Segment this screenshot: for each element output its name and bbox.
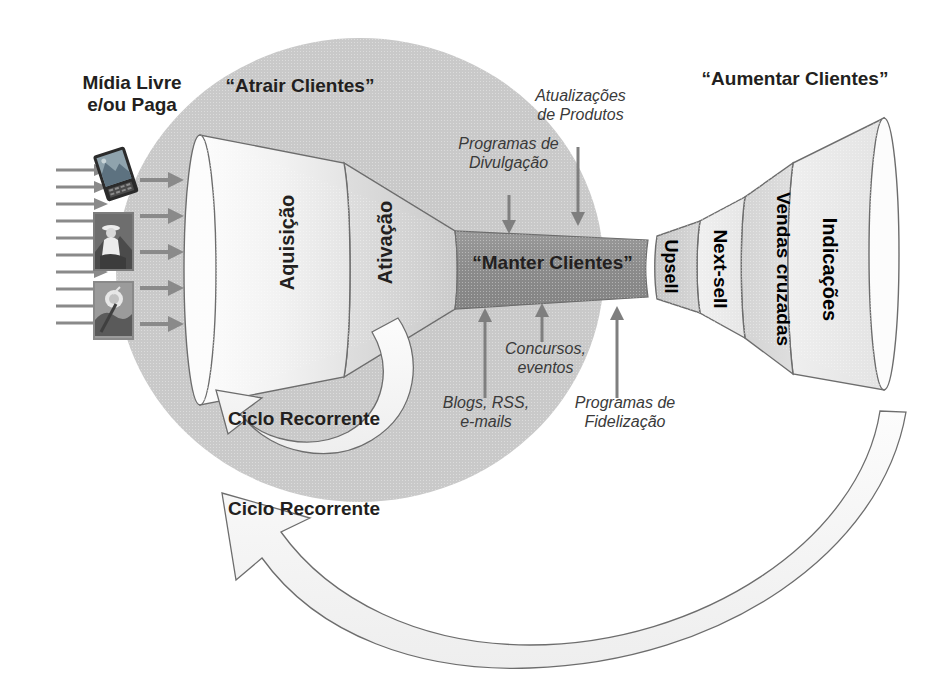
annotation-programas-de-divulgacao: Programas de Divulgação (426, 135, 591, 173)
ciclo-recorrente-interno-label: Ciclo Recorrente (228, 408, 380, 430)
cowboy-on-horse-photo (93, 212, 134, 271)
handheld-device-photo (93, 146, 139, 202)
zone-label-attract: “Atrair Clientes” (200, 75, 400, 97)
left-funnel-label-ativacao: Ativação (306, 230, 466, 254)
right-funnel-label-indicacoes: Indicações (745, 258, 915, 280)
ciclo-recorrente-externo-label: Ciclo Recorrente (228, 498, 380, 520)
annotation-concursos-eventos: Concursos, eventos (468, 340, 623, 378)
golf-swing-photo (93, 281, 134, 340)
annotation-programas-de-fidelizacao: Programas de Fidelização (540, 394, 710, 432)
zone-label-increase: “Aumentar Clientes” (660, 68, 930, 90)
annotation-atualizacoes-de-produtos: Atualizações de Produtos (498, 87, 663, 125)
media-title: Mídia Livre e/ou Paga (52, 72, 212, 117)
media-thumbnails (93, 146, 139, 340)
diagram-canvas: Mídia Livre e/ou Paga “Atrair Clientes” … (0, 0, 943, 685)
